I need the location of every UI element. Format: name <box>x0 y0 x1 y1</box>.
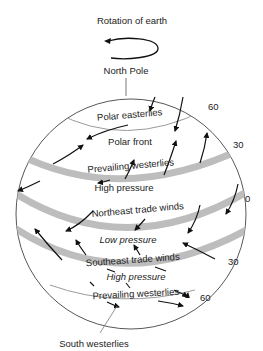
rotation-arrow-icon <box>104 38 158 59</box>
north-pole-label: North Pole <box>104 65 149 76</box>
lat-60s: 60 <box>200 292 211 303</box>
south-westerlies-label: South westerlies <box>59 338 129 349</box>
high-pressure-north-label: High pressure <box>94 182 153 193</box>
lat-30n: 30 <box>233 139 244 150</box>
lat-0: 0 <box>245 193 250 204</box>
title: Rotation of earth <box>97 15 167 26</box>
lat-60n: 60 <box>208 101 219 112</box>
high-pressure-south-label: High pressure <box>106 271 165 282</box>
low-pressure-label: Low pressure <box>99 234 156 245</box>
polar-front-label: Polar front <box>108 136 152 147</box>
wind-belt-diagram: Rotation of earth North Pole Polar easte… <box>0 0 263 351</box>
lat-30s: 30 <box>228 256 239 267</box>
